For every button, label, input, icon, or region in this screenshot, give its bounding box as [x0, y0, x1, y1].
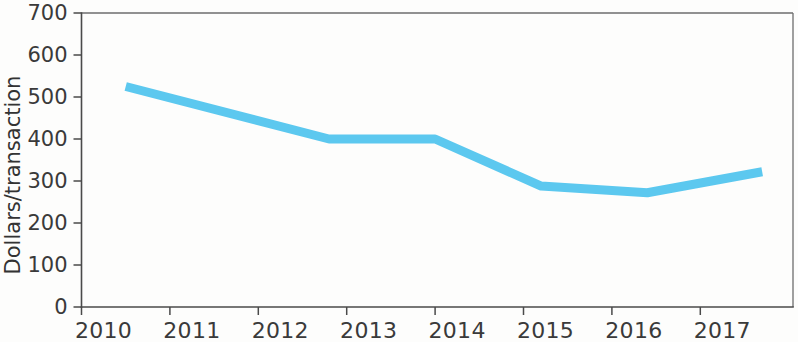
y-tick-label: 500 — [27, 85, 67, 109]
x-tick-label: 2014 — [428, 318, 485, 342]
y-tick-label: 400 — [27, 127, 67, 151]
x-tick-label: 2011 — [163, 318, 220, 342]
x-tick-label: 2012 — [252, 318, 309, 342]
x-tick-label: 2010 — [75, 318, 132, 342]
chart-canvas: 0100200300400500600700 20102011201220132… — [0, 0, 798, 342]
y-axis-ticks — [74, 13, 82, 307]
x-tick-label: 2013 — [340, 318, 397, 342]
y-tick-label: 300 — [27, 169, 67, 193]
x-tick-label: 2015 — [517, 318, 574, 342]
y-axis-tick-labels: 0100200300400500600700 — [27, 1, 67, 319]
y-tick-label: 200 — [27, 211, 67, 235]
line-chart: 0100200300400500600700 20102011201220132… — [0, 0, 798, 342]
y-tick-label: 700 — [27, 1, 67, 25]
y-tick-label: 100 — [27, 253, 67, 277]
x-axis-tick-labels: 20102011201220132014201520162017 — [75, 318, 751, 342]
x-axis-ticks — [82, 307, 701, 315]
x-tick-label: 2017 — [694, 318, 751, 342]
data-series-line — [126, 87, 762, 193]
y-tick-label: 600 — [27, 43, 67, 67]
plot-frame — [82, 13, 794, 307]
y-axis-title: Dollars/transaction — [1, 76, 25, 275]
x-tick-label: 2016 — [605, 318, 662, 342]
y-tick-label: 0 — [54, 295, 67, 319]
